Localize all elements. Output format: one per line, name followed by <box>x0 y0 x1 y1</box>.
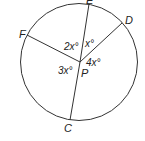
point-label-E: E <box>86 0 94 6</box>
angle-label-FPE: 2x° <box>63 41 79 52</box>
segment-PE <box>80 4 89 62</box>
angle-label-EPD: x° <box>84 38 94 49</box>
circle-diagram: E D F C P 2x° x° 4x° 3x° <box>0 0 145 141</box>
angle-label-DPC: 4x° <box>86 57 101 68</box>
point-label-D: D <box>125 14 133 26</box>
angle-label-CPF: 3x° <box>58 65 73 76</box>
point-label-C: C <box>64 122 72 134</box>
point-label-P: P <box>81 67 89 79</box>
